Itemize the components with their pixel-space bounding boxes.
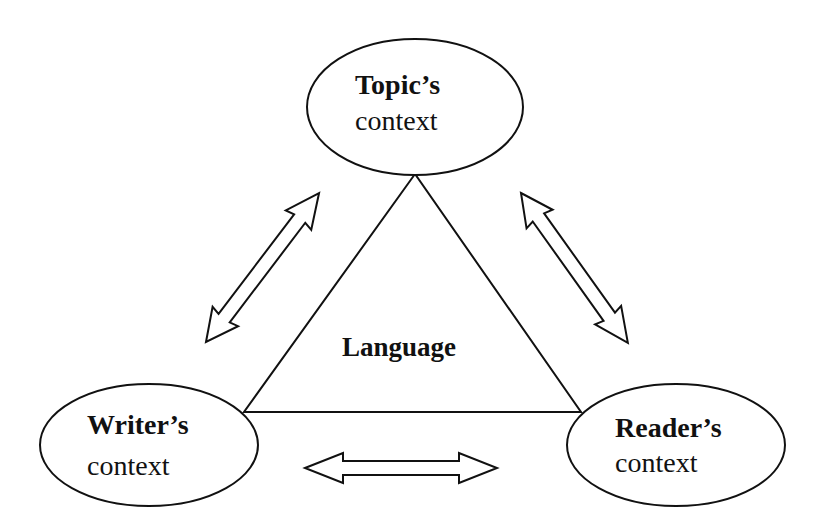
topic-subtitle: context [355,107,437,135]
double-arrow-writer-reader-icon [305,453,497,483]
writer-context-ellipse [40,384,258,506]
reader-context-ellipse [567,384,785,506]
writer-subtitle: context [87,452,169,480]
double-arrow-writer-topic-icon [193,183,332,351]
writer-title: Writer’s [87,411,189,439]
topic-title: Topic’s [355,71,440,99]
reader-title: Reader’s [615,414,722,442]
reader-subtitle: context [615,449,697,477]
language-label: Language [342,334,456,361]
double-arrow-topic-reader-icon [508,184,641,352]
